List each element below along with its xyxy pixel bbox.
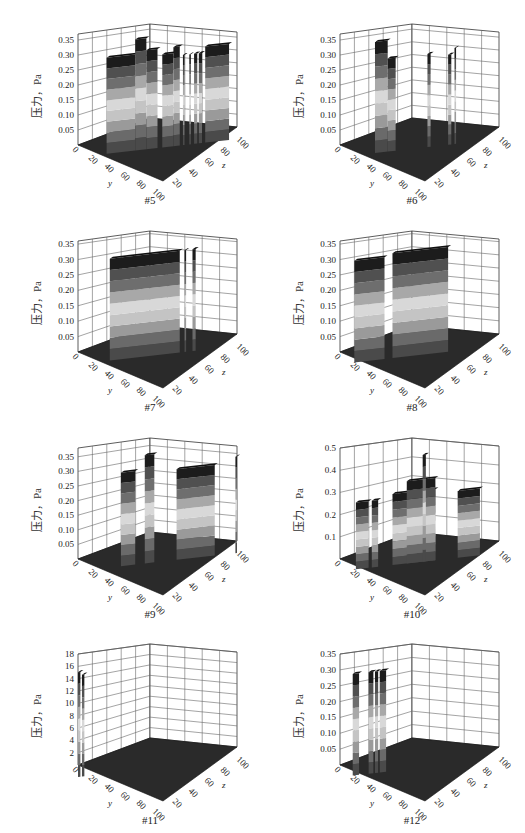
z-axis-label: z xyxy=(483,367,488,377)
z-tick-label: 0.05 xyxy=(58,125,74,135)
z-axis-label: z xyxy=(221,160,226,170)
pressure-axis-label: 压力，Pa xyxy=(28,74,44,118)
z-tick-label: 0.15 xyxy=(58,301,74,311)
z-tick-label: 0.10 xyxy=(58,525,74,535)
z-tick-label: 16 xyxy=(65,661,75,671)
z-tick-label: 6 xyxy=(70,723,75,733)
z-tick-label-floor: 40 xyxy=(187,373,201,387)
z-tick-label: 18 xyxy=(65,649,75,659)
y-tick-label: 80 xyxy=(397,385,411,399)
chart-panel-7: 0.050.100.150.200.250.300.35020406080100… xyxy=(0,207,262,415)
z-tick-label: 0.25 xyxy=(320,65,336,75)
z-tick-label: 0.35 xyxy=(58,35,74,45)
z-tick-label: 10 xyxy=(65,698,75,708)
z-axis-label: z xyxy=(221,780,226,790)
z-tick-label: 0.10 xyxy=(320,316,336,326)
z-tick-label-floor: 60 xyxy=(203,155,217,169)
y-tick-label: 40 xyxy=(365,368,379,382)
z-tick-label-floor: 40 xyxy=(449,786,463,800)
z-tick-label: 0.30 xyxy=(58,50,74,60)
z-tick-label: 0.20 xyxy=(58,496,74,506)
z-tick-label-floor: 20 xyxy=(433,176,447,190)
pressure-axis-label: 压力，Pa xyxy=(28,694,44,738)
y-tick-label: 60 xyxy=(381,584,395,598)
y-tick-label: 60 xyxy=(381,790,395,804)
y-tick-label: 20 xyxy=(349,360,363,374)
panel-title: #12 xyxy=(382,814,442,826)
z-tick-label: 0.20 xyxy=(320,80,336,90)
y-tick-label: 0 xyxy=(333,764,344,775)
y-tick-label: 0 xyxy=(333,351,344,362)
z-tick-label: 4 xyxy=(70,735,75,745)
y-tick-label: 20 xyxy=(349,773,363,787)
y-axis-label: y xyxy=(107,178,112,188)
panel-title: #11 xyxy=(120,814,180,826)
panel-title: #10 xyxy=(382,608,442,620)
y-tick-label: 40 xyxy=(365,161,379,175)
z-tick-label: 0.10 xyxy=(320,110,336,120)
y-tick-label: 40 xyxy=(103,368,117,382)
z-tick-label: 0.3 xyxy=(325,487,337,497)
z-tick-label: 0.10 xyxy=(320,728,336,738)
z-tick-label-floor: 100 xyxy=(235,548,252,565)
chart-panel-9: 0.050.100.150.200.250.300.35020406080100… xyxy=(0,414,262,622)
z-tick-label-floor: 60 xyxy=(465,362,479,376)
y-axis-label: y xyxy=(369,178,374,188)
y-axis-label: y xyxy=(107,592,112,602)
y-tick-label: 60 xyxy=(381,377,395,391)
chart-panel-12: 0.050.100.150.200.250.300.35020406080100… xyxy=(262,620,524,828)
z-tick-label: 0.15 xyxy=(58,95,74,105)
z-tick-label: 0.5 xyxy=(325,443,337,453)
y-tick-label: 20 xyxy=(87,153,101,167)
z-tick-label-floor: 80 xyxy=(481,559,495,573)
pressure-axis-label: 压力，Pa xyxy=(290,74,306,118)
z-tick-label-floor: 20 xyxy=(171,590,185,604)
y-tick-label: 80 xyxy=(135,592,149,606)
z-tick-label: 0.25 xyxy=(320,681,336,691)
z-axis-label: z xyxy=(483,780,488,790)
z-tick-label-floor: 60 xyxy=(465,155,479,169)
z-tick-label-floor: 20 xyxy=(433,796,447,810)
y-axis-label: y xyxy=(369,385,374,395)
y-axis-label: y xyxy=(369,592,374,602)
y-tick-label: 80 xyxy=(135,798,149,812)
y-axis-label: y xyxy=(107,798,112,808)
y-tick-label: 0 xyxy=(333,144,344,155)
z-tick-label-floor: 80 xyxy=(219,559,233,573)
z-tick-label-floor: 100 xyxy=(497,341,514,358)
y-tick-label: 80 xyxy=(135,385,149,399)
z-tick-label-floor: 60 xyxy=(203,775,217,789)
z-tick-label: 0.20 xyxy=(58,80,74,90)
chart-panel-11: 24681012141618020406080100y20406080100z压… xyxy=(0,620,262,828)
pressure-axis-label: 压力，Pa xyxy=(290,281,306,325)
y-tick-label: 60 xyxy=(119,377,133,391)
z-tick-label-floor: 20 xyxy=(171,796,185,810)
z-tick-label: 0.05 xyxy=(320,332,336,342)
z-tick-label: 0.4 xyxy=(325,465,337,475)
z-tick-label-floor: 60 xyxy=(203,362,217,376)
z-tick-label: 0.30 xyxy=(320,255,336,265)
z-tick-label: 14 xyxy=(65,674,75,684)
z-tick-label-floor: 40 xyxy=(187,580,201,594)
z-tick-label: 8 xyxy=(70,711,75,721)
z-tick-label: 0.05 xyxy=(320,125,336,135)
z-axis-label: z xyxy=(483,160,488,170)
z-tick-label-floor: 100 xyxy=(235,754,252,771)
z-tick-label-floor: 100 xyxy=(497,754,514,771)
z-tick-label: 0.30 xyxy=(320,50,336,60)
chart-panel-5: 0.050.100.150.200.250.300.35020406080100… xyxy=(0,0,262,208)
y-tick-label: 0 xyxy=(71,558,82,569)
y-tick-label: 0 xyxy=(71,144,82,155)
chart-panel-6: 0.050.100.150.200.250.300.35020406080100… xyxy=(262,0,524,208)
z-tick-label: 0.35 xyxy=(320,35,336,45)
panel-title: #8 xyxy=(382,401,442,413)
y-tick-label: 0 xyxy=(71,351,82,362)
z-tick-label: 0.25 xyxy=(58,270,74,280)
panel-title: #5 xyxy=(120,194,180,206)
z-tick-label-floor: 100 xyxy=(235,341,252,358)
z-tick-label: 0.1 xyxy=(325,532,336,542)
y-tick-label: 40 xyxy=(365,781,379,795)
z-tick-label: 0.20 xyxy=(320,697,336,707)
z-tick-label: 0.10 xyxy=(58,110,74,120)
pressure-axis-label: 压力，Pa xyxy=(28,281,44,325)
